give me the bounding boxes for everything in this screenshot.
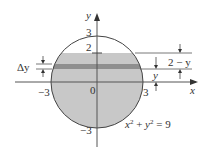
x-axis-label: x	[189, 84, 195, 96]
tick-label-neg3-left: −3	[38, 86, 50, 98]
origin-label: 0	[90, 84, 96, 96]
strip-delta-y	[40, 64, 160, 69]
delta-y-label: Δy	[17, 61, 30, 73]
arrow-up-icon	[178, 69, 182, 73]
two-minus-y-label: 2 − y	[168, 56, 191, 68]
arrow-up-icon	[41, 69, 45, 73]
y-axis-label: y	[85, 9, 91, 21]
tick-label-3-top: 3	[86, 26, 92, 38]
tick-label-3-right: 3	[143, 86, 149, 98]
arrow-down-icon	[41, 60, 45, 64]
circle-equation: x2 + y2 = 9	[124, 118, 171, 130]
tick-label-neg3-bottom: −3	[80, 124, 92, 136]
arrow-down-icon	[178, 49, 182, 53]
arrow-up-icon	[154, 82, 158, 86]
tick-label-2: 2	[86, 41, 92, 53]
y-axis-arrow-icon	[94, 13, 100, 21]
y-distance-label: y	[152, 69, 158, 81]
circle-tank-diagram: y x 3 2 −3 −3 3 0 Δy y 2 − y x2 + y2 = 9	[0, 0, 204, 156]
